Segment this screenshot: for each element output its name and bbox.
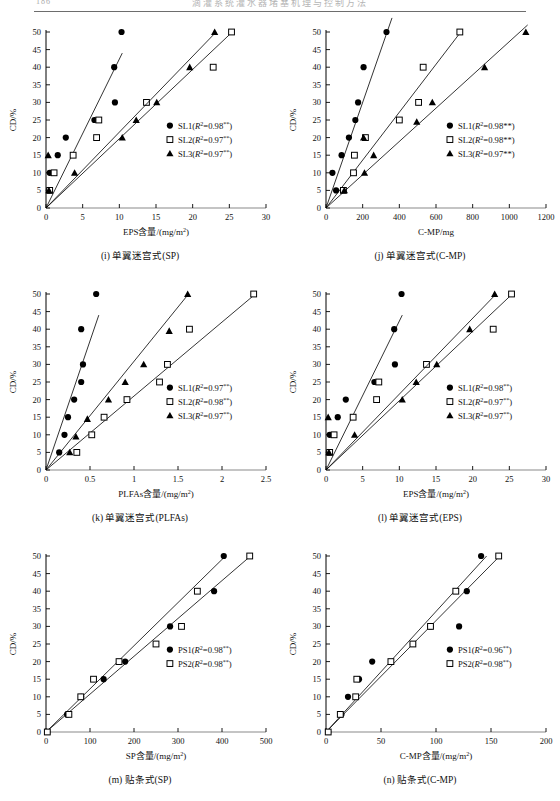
running-header: 186 滴灌系统灌水器堵塞机理与控制方法 <box>0 0 560 16</box>
svg-text:40: 40 <box>33 62 42 72</box>
svg-text:10: 10 <box>313 168 322 178</box>
svg-text:200: 200 <box>128 736 141 746</box>
svg-text:30: 30 <box>313 97 322 107</box>
svg-text:20: 20 <box>468 474 477 484</box>
svg-text:15: 15 <box>313 674 322 684</box>
svg-text:0: 0 <box>317 203 321 213</box>
data-point <box>346 135 352 141</box>
svg-text:45: 45 <box>33 45 42 55</box>
series-SL1 <box>46 29 125 208</box>
x-axis-label: EPS含量/(mg/m2) <box>123 226 189 237</box>
svg-text:40: 40 <box>313 324 322 334</box>
series-SL1 <box>326 291 405 470</box>
series-SL1 <box>326 18 392 208</box>
header-rule <box>34 11 526 12</box>
data-point <box>78 379 84 385</box>
legend-label: SL3(R2=0.97**) <box>178 149 232 159</box>
data-point <box>410 641 416 647</box>
data-point <box>376 379 382 385</box>
figure-grid: 05101520253035404550051015202530EPS含量/(m… <box>0 16 560 801</box>
legend: SL1(R2=0.98**)SL2(R2=0.97**)SL3(R2=0.97*… <box>166 121 232 159</box>
svg-text:45: 45 <box>33 569 42 579</box>
svg-text:10: 10 <box>313 692 322 702</box>
figure-cell-n: 05101520253035404550050100150200C-MP含量/(… <box>280 540 560 801</box>
data-point <box>429 99 436 106</box>
x-axis-label: EPS含量/(mg/m2) <box>403 488 469 499</box>
data-point <box>399 396 406 403</box>
y-axis-ticks: 05101520253035404550 <box>33 289 51 475</box>
plot-n: 05101520253035404550050100150200C-MP含量/(… <box>280 540 560 776</box>
svg-text:15: 15 <box>33 412 42 422</box>
data-point <box>391 326 397 332</box>
data-point <box>56 449 62 455</box>
y-axis-label: CD/% <box>288 108 298 131</box>
series-SL3 <box>325 290 499 470</box>
data-point <box>351 170 357 176</box>
svg-text:50: 50 <box>313 551 322 561</box>
x-axis-ticks: 020040060080010001200 <box>324 204 555 222</box>
svg-text:500: 500 <box>260 736 273 746</box>
series-SL3 <box>326 25 529 208</box>
data-point <box>221 553 227 559</box>
svg-text:0: 0 <box>317 465 321 475</box>
legend-marker <box>447 384 453 390</box>
svg-text:100: 100 <box>84 736 97 746</box>
svg-text:100: 100 <box>430 736 443 746</box>
series-SL2 <box>46 29 234 208</box>
legend-label: PS1(R2=0.98**) <box>178 645 232 655</box>
svg-text:25: 25 <box>33 639 42 649</box>
svg-text:35: 35 <box>33 604 42 614</box>
svg-text:40: 40 <box>33 324 42 334</box>
svg-text:35: 35 <box>33 342 42 352</box>
figure-caption-l: (l) 单翼迷宫式(EPS) <box>280 510 560 524</box>
data-point <box>416 100 422 106</box>
data-point <box>78 694 84 700</box>
y-axis-ticks: 05101520253035404550 <box>313 551 331 737</box>
legend-label: SL2(R2=0.97**) <box>178 135 232 145</box>
svg-text:5: 5 <box>37 185 41 195</box>
series-SL1 <box>46 291 99 470</box>
legend-label: PS1(R2=0.96**) <box>458 645 512 655</box>
svg-text:45: 45 <box>313 569 322 579</box>
data-point <box>251 291 257 297</box>
svg-text:50: 50 <box>313 27 322 37</box>
svg-text:40: 40 <box>313 586 322 596</box>
data-point <box>111 64 117 70</box>
data-point <box>187 326 193 332</box>
axes <box>326 30 546 208</box>
data-point <box>116 659 122 665</box>
x-axis-ticks: 051015202530 <box>44 204 270 222</box>
plot-l: 05101520253035404550051015202530EPS含量/(m… <box>280 278 560 514</box>
svg-text:5: 5 <box>37 709 41 719</box>
data-point <box>153 641 159 647</box>
series-SL2 <box>326 291 514 470</box>
data-point <box>345 694 351 700</box>
svg-text:1200: 1200 <box>538 212 555 222</box>
figure-row-1: 05101520253035404550051015202530EPS含量/(m… <box>0 16 560 278</box>
legend: SL1(R2=0.98**)SL2(R2=0.98**)SL3(R2=0.97*… <box>446 121 515 159</box>
data-point <box>351 431 358 438</box>
axes <box>326 292 546 470</box>
legend-marker <box>166 412 173 418</box>
y-axis-label: CD/% <box>288 370 298 393</box>
x-axis-label: PLFAs含量/(mg/m2) <box>118 488 193 499</box>
legend-label: SL3(R2=0.97**) <box>458 411 512 421</box>
plot-area-l: 05101520253035404550051015202530EPS含量/(m… <box>280 278 560 514</box>
svg-text:0: 0 <box>324 736 328 746</box>
data-point <box>337 712 343 718</box>
svg-text:20: 20 <box>313 395 322 405</box>
data-point <box>89 432 95 438</box>
svg-text:30: 30 <box>262 212 271 222</box>
data-point <box>118 29 124 35</box>
svg-text:30: 30 <box>313 359 322 369</box>
legend-marker <box>446 412 453 418</box>
data-point <box>428 624 434 630</box>
svg-text:800: 800 <box>466 212 479 222</box>
data-point <box>413 118 420 125</box>
data-point <box>55 152 61 158</box>
svg-text:0: 0 <box>37 727 41 737</box>
data-point <box>478 553 484 559</box>
data-point <box>74 450 80 456</box>
series-SL3 <box>46 290 191 470</box>
svg-text:30: 30 <box>33 97 42 107</box>
